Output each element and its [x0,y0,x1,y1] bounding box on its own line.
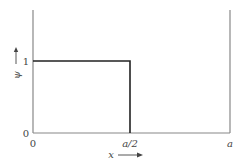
right-arrow-head-icon [137,153,143,158]
x-tick-a: a [227,138,233,149]
x-tick-a-half: a/2 [122,138,138,149]
up-arrow-head-icon [14,47,18,52]
x-tick-0: 0 [30,138,36,149]
x-symbol: x [108,149,114,160]
y-tick-1: 1 [23,56,29,67]
y-axis-label: ψ [11,47,22,79]
y-tick-0: 0 [23,128,29,139]
step-function-curve [33,61,130,133]
psi-symbol: ψ [11,71,22,79]
step-function-diagram: 1 0 ψ 0 a/2 a x [0,0,243,165]
x-axis-label: x [108,149,143,160]
